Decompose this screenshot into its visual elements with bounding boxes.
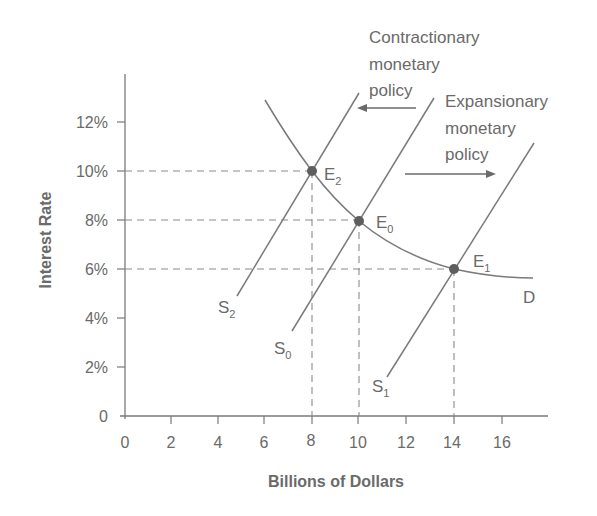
y-tick-label: 12% [76, 114, 108, 131]
x-tick-label: 4 [214, 434, 223, 451]
y-tick-label: 4% [85, 310, 108, 327]
x-tick-label: 6 [260, 434, 269, 451]
label-e2: E2 [324, 165, 341, 187]
svg-text:Expansionary: Expansionary [445, 92, 549, 111]
label-s0: S0 [274, 339, 291, 361]
x-tick-label: 0 [121, 434, 130, 451]
label-demand: D [523, 288, 535, 307]
x-tick-label: 12 [397, 434, 415, 451]
y-tick-label: 0 [99, 408, 108, 425]
label-s2: S2 [218, 298, 235, 320]
y-tick-label: 8% [85, 212, 108, 229]
x-tick-label: 8 [307, 432, 316, 449]
y-ticks [117, 122, 125, 367]
monetary-policy-chart: 0 2% 4% 6% 8% 10% 12% 0 2 4 6 8 10 12 14… [0, 0, 597, 516]
svg-text:monetary: monetary [445, 119, 516, 138]
y-tick-label: 2% [85, 359, 108, 376]
supply-curve-s0 [292, 98, 434, 331]
x-axis-title: Billions of Dollars [268, 473, 404, 490]
x-tick-label: 10 [349, 434, 367, 451]
contractionary-annotation: Contractionary monetary policy [369, 28, 480, 100]
y-axis-title: Interest Rate [37, 191, 54, 288]
label-e0: E0 [376, 213, 393, 235]
x-tick-labels: 0 2 4 6 8 10 12 14 16 [121, 432, 511, 451]
y-tick-label: 10% [76, 163, 108, 180]
svg-text:policy: policy [369, 81, 413, 100]
x-ticks [171, 416, 502, 424]
x-tick-label: 2 [167, 434, 176, 451]
expansionary-annotation: Expansionary monetary policy [445, 92, 549, 164]
y-tick-labels: 0 2% 4% 6% 8% 10% 12% [76, 114, 108, 425]
supply-curve-s2 [237, 93, 359, 296]
contractionary-arrow [357, 104, 416, 112]
svg-text:policy: policy [445, 145, 489, 164]
x-tick-label: 16 [493, 434, 511, 451]
expansionary-arrow [405, 170, 496, 178]
label-e1: E1 [473, 252, 490, 274]
svg-text:Contractionary: Contractionary [369, 28, 480, 47]
equilibrium-point-e0 [354, 216, 364, 226]
svg-text:monetary: monetary [369, 55, 440, 74]
label-s1: S1 [372, 377, 389, 399]
supply-curve-s1 [387, 143, 534, 377]
equilibrium-point-e1 [449, 264, 459, 274]
equilibrium-point-e2 [307, 166, 317, 176]
y-tick-label: 6% [85, 261, 108, 278]
x-tick-label: 14 [443, 434, 461, 451]
